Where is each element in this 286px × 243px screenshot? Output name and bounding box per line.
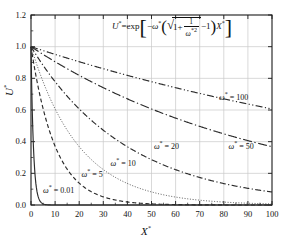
x-axis-title-sup: * [148,225,151,231]
y-tick-label: 0.8 [2,73,26,83]
y-axis-title-text: U [3,88,15,96]
curve-label: ω* = 0.01 [43,184,74,195]
y-tick-label: 1.0 [2,41,26,51]
equation-bracket-open: [ [140,14,147,39]
equation-frac-den: ω*2 [184,27,199,37]
x-tick-label: 90 [237,209,259,219]
equation-fraction: 1ω*2 [184,18,199,37]
y-tick-label: 1.2 [2,10,26,20]
x-tick-label: 100 [261,209,283,219]
x-tick-label: 10 [44,209,66,219]
curve-label: ω* = 50 [229,140,254,151]
equation-bracket-close: ] [225,14,232,39]
equation-frac-num: 1 [184,18,199,27]
equation-annotation: U*=exp[−ω*(√1+1ω*2−1)X*] [112,14,232,40]
radical-icon: √ [167,18,174,31]
grid-lines [31,15,272,205]
x-tick-label: 80 [213,209,235,219]
equation-exp: exp [127,21,140,31]
x-axis-title: X* [141,225,151,237]
x-tick-label: 50 [141,209,163,219]
y-axis-title: U* [3,85,15,96]
equation-radicand: 1+1ω*2 [172,17,201,37]
y-tick-label: 0.2 [2,168,26,178]
x-tick-label: 20 [68,209,90,219]
y-tick-label: 0.4 [2,136,26,146]
y-tick-label: 0.6 [2,105,26,115]
y-tick-label: 0.0 [2,200,26,210]
equation-plus: + [178,22,183,32]
equation-sqrt: √1+1ω*2 [167,17,201,37]
y-axis-title-sup: * [3,85,9,88]
x-tick-label: 40 [116,209,138,219]
curve-label: ω* = 100 [219,91,248,102]
curve-label: ω* = 5 [82,168,103,179]
equation-frac-den-sup: *2 [191,27,197,33]
x-tick-label: 70 [189,209,211,219]
curve-label: ω* = 20 [154,140,179,151]
x-tick-label: 30 [92,209,114,219]
figure-container: U* X* 1.21.00.80.60.40.20.0 010203040506… [0,0,286,243]
x-axis-title-text: X [141,225,148,237]
x-tick-label: 0 [20,209,42,219]
x-tick-label: 60 [165,209,187,219]
curve-label: ω* = 10 [111,157,136,168]
